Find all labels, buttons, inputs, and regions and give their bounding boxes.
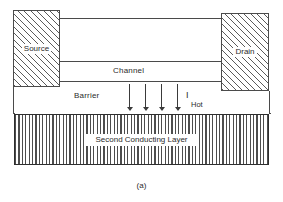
- top-boundary-line: [59, 18, 222, 19]
- channel-top-line: [59, 61, 222, 62]
- device-cross-section-figure: Source Drain Channel Barrier I Hot Secon…: [0, 0, 283, 202]
- channel-bottom-line: [59, 81, 222, 82]
- figure-caption: (a): [0, 181, 283, 190]
- hot-current-symbol: I: [186, 91, 203, 100]
- source-side-wall: [13, 87, 14, 114]
- injection-arrow-3: [157, 84, 166, 112]
- barrier-label: Barrier: [74, 91, 99, 100]
- drain-region: Drain: [221, 13, 269, 91]
- source-region: Source: [13, 10, 60, 87]
- hot-current-annotation: I Hot: [186, 91, 203, 109]
- second-conducting-layer-region: Second Conducting Layer: [14, 114, 269, 165]
- injection-arrow-2: [141, 84, 150, 112]
- injection-arrow-4: [173, 84, 182, 112]
- drain-label: Drain: [233, 47, 256, 57]
- channel-label: Channel: [113, 66, 144, 75]
- second-conducting-layer-label: Second Conducting Layer: [85, 134, 197, 146]
- hot-current-subscript: Hot: [191, 101, 203, 109]
- drain-side-wall: [269, 91, 270, 114]
- source-label: Source: [22, 44, 51, 54]
- injection-arrow-1: [125, 84, 134, 112]
